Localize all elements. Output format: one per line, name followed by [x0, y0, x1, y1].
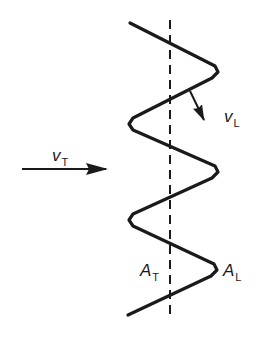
label-at: AT — [140, 262, 159, 279]
label-al: AL — [223, 262, 241, 279]
label-al-main: A — [223, 261, 234, 280]
label-vt-sub: T — [62, 156, 69, 168]
label-al-sub: L — [235, 271, 241, 283]
label-vl: vL — [224, 108, 240, 125]
label-vl-main: v — [224, 107, 233, 126]
label-at-sub: T — [152, 271, 159, 283]
label-vt-main: v — [52, 146, 61, 165]
label-at-main: A — [140, 261, 151, 280]
wave-diagram — [0, 0, 266, 338]
label-vt: vT — [52, 147, 68, 164]
longitudinal-velocity-arrow-icon — [190, 91, 204, 120]
label-vl-sub: L — [234, 117, 240, 129]
